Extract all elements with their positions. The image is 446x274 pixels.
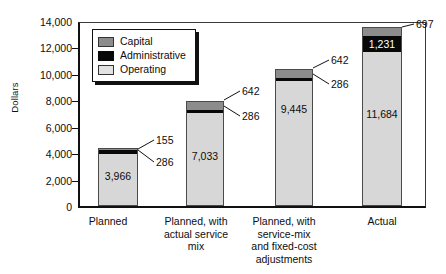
bar-actual-segment-capital[interactable] xyxy=(362,27,402,36)
bar-planned-actual-service-mix-segment-capital[interactable] xyxy=(186,101,224,110)
legend-label-operating: Operating xyxy=(120,64,166,75)
legend-swatch-operating-icon xyxy=(98,65,114,75)
callout-fixed-cost-capital: 642 xyxy=(331,54,349,66)
x-tick-label-actual-line-1: Actual xyxy=(330,215,434,228)
bar-planned-segment-operating[interactable]: 3,966 xyxy=(98,154,138,207)
legend: Capital Administrative Operating xyxy=(92,29,196,82)
bar-actual-segment-operating[interactable]: 11,684 xyxy=(362,52,402,206)
bar-actual-segment-administrative[interactable]: 1,231 xyxy=(362,36,402,52)
bar-planned-service-mix-fixed-cost[interactable]: 9,445 xyxy=(275,69,313,206)
bar-planned-actual-service-mix-segment-operating[interactable]: 7,033 xyxy=(186,113,224,206)
legend-label-capital: Capital xyxy=(120,36,153,47)
plot-area: 3,966 7,033 9,445 1,231 11,68 xyxy=(78,22,426,208)
bar-planned-service-mix-fixed-cost-segment-capital[interactable] xyxy=(275,69,313,78)
callout-actual-service-mix-administrative: 286 xyxy=(242,110,260,122)
y-tick-label-12000: 12,000 xyxy=(20,43,72,53)
y-tick-label-14000: 14,000 xyxy=(20,17,72,27)
legend-label-administrative: Administrative xyxy=(120,50,186,61)
legend-item-capital[interactable]: Capital xyxy=(98,35,190,48)
x-tick-label-fixed-cost-line-3: and fixed-cost xyxy=(231,240,337,253)
y-tick-label-0: 0 xyxy=(20,202,72,212)
bar-planned-actual-service-mix-label-operating: 7,033 xyxy=(187,150,223,162)
bar-actual[interactable]: 1,231 11,684 xyxy=(362,27,402,206)
x-tick-label-fixed-cost-line-4: adjustments xyxy=(231,253,337,266)
callout-planned-administrative: 286 xyxy=(156,156,174,168)
bar-actual-label-administrative: 1,231 xyxy=(363,38,401,50)
x-tick-label-fixed-cost-line-1: Planned, with xyxy=(231,215,337,228)
bar-planned-service-mix-fixed-cost-segment-operating[interactable]: 9,445 xyxy=(275,81,313,206)
bar-actual-label-operating: 11,684 xyxy=(363,108,401,120)
y-tick-label-10000: 10,000 xyxy=(20,70,72,80)
legend-item-administrative[interactable]: Administrative xyxy=(98,49,190,62)
x-tick-label-fixed-cost: Planned, with service-mix and fixed-cost… xyxy=(231,215,337,265)
callout-actual-service-mix-capital: 642 xyxy=(242,85,260,97)
x-tick-label-fixed-cost-line-2: service-mix xyxy=(231,228,337,241)
bar-planned-service-mix-fixed-cost-label-operating: 9,445 xyxy=(276,103,312,115)
callout-fixed-cost-administrative: 286 xyxy=(331,78,349,90)
legend-item-operating[interactable]: Operating xyxy=(98,63,190,76)
bar-planned-actual-service-mix[interactable]: 7,033 xyxy=(186,101,224,206)
x-tick-label-actual: Actual xyxy=(330,215,434,228)
y-tick-label-2000: 2,000 xyxy=(20,176,72,186)
legend-swatch-capital-icon xyxy=(98,37,114,47)
y-axis-tick-labels: 14,000 12,000 10,000 8,000 6,000 4,000 2… xyxy=(18,0,72,274)
stacked-bar-chart: Dollars 14,000 12,000 10,000 8,000 6,000… xyxy=(0,0,446,274)
callout-planned-capital: 155 xyxy=(156,134,174,146)
callout-actual-capital: 697 xyxy=(416,18,434,30)
bar-planned[interactable]: 3,966 xyxy=(98,148,138,206)
y-tick-label-8000: 8,000 xyxy=(20,96,72,106)
bar-planned-label-operating: 3,966 xyxy=(99,170,137,182)
y-tick-label-4000: 4,000 xyxy=(20,149,72,159)
legend-swatch-administrative-icon xyxy=(98,51,114,61)
y-tick-label-6000: 6,000 xyxy=(20,123,72,133)
